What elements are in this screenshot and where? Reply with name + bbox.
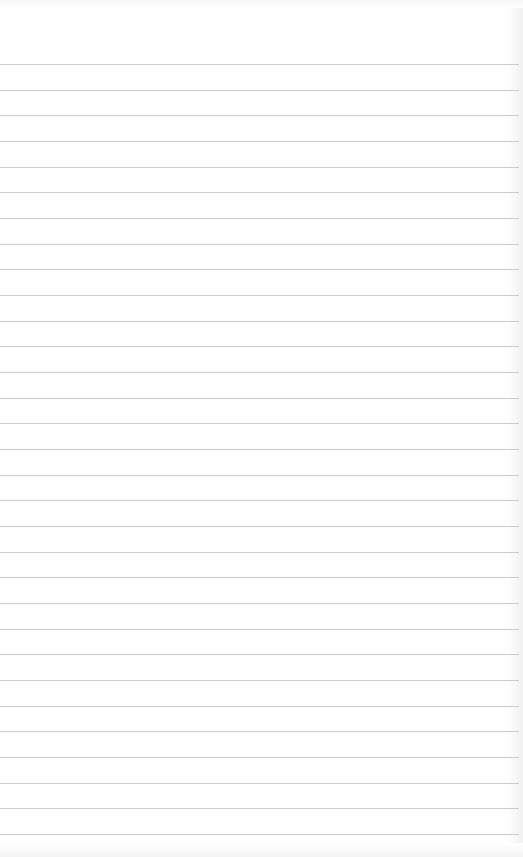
ruled-line	[0, 629, 519, 630]
ruled-line	[0, 757, 519, 758]
ruled-line	[0, 90, 519, 91]
ruled-line	[0, 500, 519, 501]
ruled-line	[0, 64, 519, 65]
ruled-line	[0, 192, 519, 193]
ruled-line	[0, 475, 519, 476]
ruled-line	[0, 706, 519, 707]
ruled-line	[0, 449, 519, 450]
ruled-line	[0, 808, 519, 809]
ruled-line	[0, 783, 519, 784]
ruled-line	[0, 167, 519, 168]
ruled-line	[0, 423, 519, 424]
ruled-line	[0, 321, 519, 322]
faded-footer-strip	[0, 843, 523, 857]
ruled-line	[0, 372, 519, 373]
faded-header-strip	[0, 0, 523, 8]
ruled-line	[0, 141, 519, 142]
ruled-line	[0, 552, 519, 553]
ruled-line	[0, 269, 519, 270]
ruled-line	[0, 577, 519, 578]
ruled-line	[0, 115, 519, 116]
ruled-paper	[0, 0, 523, 857]
ruled-line	[0, 218, 519, 219]
ruled-line	[0, 244, 519, 245]
ruled-line	[0, 295, 519, 296]
ruled-line	[0, 680, 519, 681]
ruled-line	[0, 346, 519, 347]
ruled-line	[0, 834, 519, 835]
ruled-line	[0, 603, 519, 604]
ruled-line	[0, 731, 519, 732]
ruled-line	[0, 398, 519, 399]
ruled-line	[0, 526, 519, 527]
ruled-line	[0, 654, 519, 655]
